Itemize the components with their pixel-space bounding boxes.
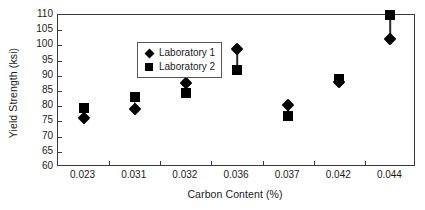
y-tick-mark [58, 106, 62, 107]
x-tick-label: 0.023 [56, 169, 110, 181]
y-axis-tick-labels: 6065707580859095100105110 [25, 14, 53, 166]
y-tick-mark [58, 152, 62, 153]
y-tick-label: 100 [27, 39, 53, 49]
y-axis-title: Yield Strength (ksi) [5, 8, 21, 178]
x-tick-label: 0.036 [209, 169, 263, 181]
y-tick-label: 65 [27, 146, 53, 156]
y-tick-label: 95 [27, 55, 53, 65]
y-tick-mark [58, 30, 62, 31]
x-tick-mark [211, 161, 212, 165]
y-tick-mark [58, 137, 62, 138]
y-tick-label: 105 [27, 24, 53, 34]
x-tick-label: 0.037 [260, 169, 314, 181]
y-tick-label: 85 [27, 85, 53, 95]
x-axis-tick-labels: 0.0230.0310.0320.0360.0370.0420.044 [57, 169, 415, 183]
x-tick-label: 0.042 [311, 169, 365, 181]
data-point-laboratory-2 [283, 111, 293, 121]
x-tick-mark [365, 161, 366, 165]
x-tick-label: 0.044 [362, 169, 416, 181]
y-tick-mark [58, 61, 62, 62]
x-axis-title: Carbon Content (%) [55, 188, 415, 200]
data-point-laboratory-1 [128, 103, 141, 116]
y-tick-label: 60 [27, 161, 53, 171]
yield-strength-scatter-chart: Yield Strength (ksi) 6065707580859095100… [0, 0, 425, 210]
y-tick-label: 70 [27, 131, 53, 141]
x-tick-label: 0.031 [107, 169, 161, 181]
data-point-laboratory-1 [282, 98, 295, 111]
y-tick-label: 110 [27, 9, 53, 19]
data-point-laboratory-1 [77, 112, 90, 125]
data-point-laboratory-2 [181, 88, 191, 98]
y-tick-mark [58, 121, 62, 122]
data-point-laboratory-2 [385, 10, 395, 20]
y-tick-label: 80 [27, 100, 53, 110]
y-tick-label: 90 [27, 70, 53, 80]
legend-label-laboratory-1: Laboratory 1 [159, 46, 215, 60]
x-tick-mark [160, 161, 161, 165]
legend-item-laboratory-2: Laboratory 2 [142, 60, 215, 74]
y-tick-label: 75 [27, 115, 53, 125]
data-point-laboratory-1 [384, 33, 397, 46]
chart-legend: Laboratory 1 Laboratory 2 [137, 42, 222, 78]
data-point-laboratory-1 [231, 43, 244, 56]
plot-area: Laboratory 1 Laboratory 2 [57, 14, 415, 166]
legend-label-laboratory-2: Laboratory 2 [159, 60, 215, 74]
data-point-laboratory-2 [232, 65, 242, 75]
x-tick-mark [314, 161, 315, 165]
y-tick-mark [58, 91, 62, 92]
y-tick-mark [58, 45, 62, 46]
x-tick-label: 0.032 [158, 169, 212, 181]
square-marker-icon [142, 63, 156, 71]
x-tick-mark [109, 161, 110, 165]
y-tick-mark [58, 76, 62, 77]
x-tick-mark [263, 161, 264, 165]
data-point-laboratory-2 [130, 92, 140, 102]
diamond-marker-icon [142, 50, 156, 57]
legend-item-laboratory-1: Laboratory 1 [142, 46, 215, 60]
